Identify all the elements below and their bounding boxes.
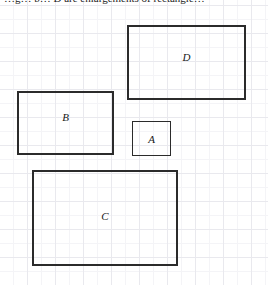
rectangle-a: A <box>132 121 171 156</box>
rectangle-c-label: C <box>101 211 108 222</box>
figure-caption-clipped: …g… b… D are enlargements of rectangle… <box>0 0 268 6</box>
figure-canvas: …g… b… D are enlargements of rectangle… … <box>0 0 268 285</box>
rectangle-d: D <box>127 25 246 100</box>
rectangle-c: C <box>32 170 178 266</box>
rectangle-b: B <box>17 91 114 155</box>
rectangle-d-label: D <box>183 51 191 62</box>
rectangle-b-label: B <box>62 112 69 123</box>
figure-caption-text: …g… b… D are enlargements of rectangle… <box>4 0 205 5</box>
rectangle-a-label: A <box>148 133 155 144</box>
